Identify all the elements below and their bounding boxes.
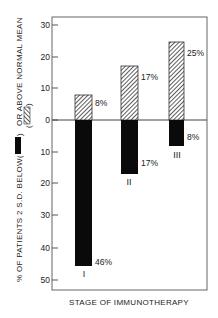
ytick-neg40: 40 xyxy=(41,243,51,253)
bar-stage-1-above xyxy=(75,95,92,120)
legend-solid-swatch xyxy=(15,137,21,154)
ytick-30: 30 xyxy=(41,20,51,30)
bar-stage-2-below xyxy=(121,120,138,174)
y-axis-tick-labels: 30 20 10 0 10 20 30 40 50 xyxy=(41,20,51,285)
bar-stage-2-above xyxy=(121,66,138,120)
ytick-10: 10 xyxy=(41,83,51,93)
label-stage-3-above: 25% xyxy=(187,48,204,58)
legend-hatched-swatch xyxy=(24,107,30,124)
bar-stage-3-below xyxy=(169,120,184,146)
ytick-neg20: 20 xyxy=(41,178,51,188)
legend-hatched-close-paren: ) xyxy=(24,103,33,106)
category-stage-2: II xyxy=(126,177,131,187)
ytick-neg50: 50 xyxy=(41,275,51,285)
y-axis-ticks xyxy=(52,25,58,280)
label-stage-2-below: 17% xyxy=(141,158,158,168)
bar-stage-1-below xyxy=(75,120,92,266)
value-labels: 8% 17% 25% 46% 17% 8% xyxy=(95,48,204,267)
label-stage-3-below: 8% xyxy=(187,132,200,142)
y-axis-label-middle: OR ABOVE NORMAL MEAN xyxy=(15,17,24,126)
category-stage-3: III xyxy=(173,150,181,160)
immunotherapy-chart: 30 20 10 0 10 20 30 40 50 8% 17% 25% 46%… xyxy=(0,0,218,318)
bar-stage-3-above xyxy=(169,42,184,120)
ytick-0: 0 xyxy=(45,115,50,125)
category-stage-1: I xyxy=(83,269,86,279)
ytick-20: 20 xyxy=(41,52,51,62)
y-axis-label-prefix: % OF PATIENTS 2 S.D. BELOW xyxy=(15,158,24,282)
y-axis-label: % OF PATIENTS 2 S.D. BELOW ( ) OR ABOVE … xyxy=(15,17,24,282)
label-stage-1-below: 46% xyxy=(95,257,112,267)
ytick-neg30: 30 xyxy=(41,210,51,220)
x-axis-label: STAGE OF IMMUNOTHERAPY xyxy=(69,298,189,307)
legend-hatched: ( ) xyxy=(24,103,33,128)
legend-solid-close-paren: ) xyxy=(15,133,24,136)
ytick-neg10: 10 xyxy=(41,147,51,157)
legend-solid-open-paren: ( xyxy=(15,155,24,158)
label-stage-1-above: 8% xyxy=(95,98,108,108)
legend-hatched-open-paren: ( xyxy=(24,125,33,128)
label-stage-2-above: 17% xyxy=(141,72,158,82)
